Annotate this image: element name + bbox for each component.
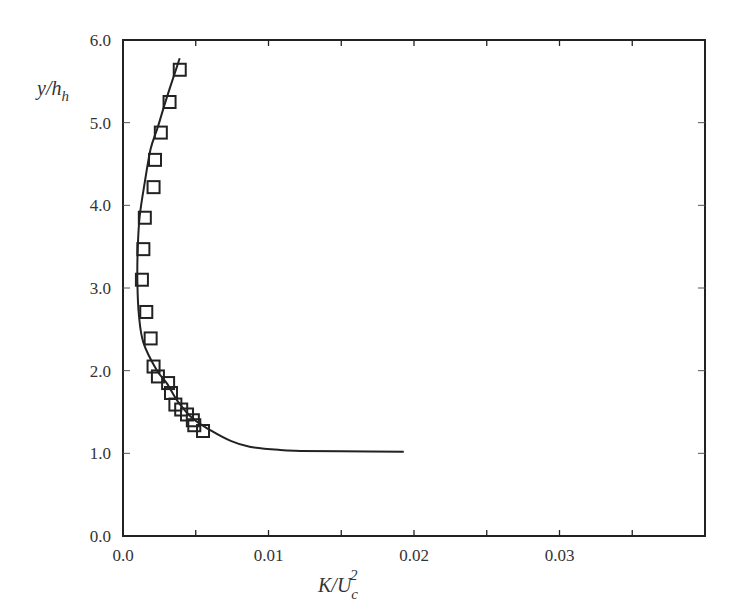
y-tick-label: 0.0 <box>90 527 111 546</box>
plot-border <box>123 40 705 536</box>
square-marker <box>149 154 161 166</box>
plot-frame <box>123 40 705 536</box>
chart: 0.00.010.020.03 0.01.02.03.04.05.06.0 K/… <box>0 0 741 616</box>
y-tick-labels: 0.01.02.03.04.05.06.0 <box>90 31 111 546</box>
y-axis-label-sub: h <box>61 88 69 104</box>
y-tick-label: 6.0 <box>90 31 111 50</box>
x-tick-label: 0.03 <box>545 546 575 565</box>
y-tick-label: 2.0 <box>90 362 111 381</box>
y-axis-label-main: y/h <box>35 77 61 100</box>
x-axis-label-sub: c <box>351 586 358 602</box>
y-tick-label: 5.0 <box>90 114 111 133</box>
axis-ticks <box>123 40 705 536</box>
data-series <box>136 58 404 452</box>
square-marker <box>137 243 149 255</box>
x-axis-label-main: K/U <box>317 574 353 596</box>
y-tick-label: 3.0 <box>90 279 111 298</box>
square-marker <box>148 181 160 193</box>
square-marker <box>145 332 157 344</box>
x-axis-label-sup: 2 <box>350 567 358 583</box>
x-axis-label: K/Uc2 <box>317 567 358 602</box>
y-tick-label: 4.0 <box>90 196 111 215</box>
y-tick-label: 1.0 <box>90 444 111 463</box>
x-tick-labels: 0.00.010.020.03 <box>112 546 574 565</box>
x-tick-label: 0.01 <box>254 546 284 565</box>
y-axis-label: y/hh <box>35 77 69 104</box>
square-marker <box>140 306 152 318</box>
x-tick-label: 0.02 <box>399 546 429 565</box>
x-tick-label: 0.0 <box>112 546 133 565</box>
